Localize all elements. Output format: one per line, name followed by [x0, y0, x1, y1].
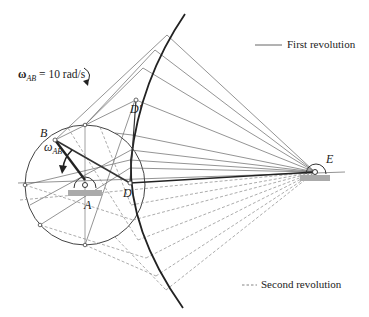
omega-value: = 10 rad/s [39, 68, 85, 80]
point-d-label: D [123, 186, 132, 201]
omega-subscript: AB [26, 74, 36, 83]
point-dprime-label: D′ [130, 102, 141, 117]
legend-first-revolution: First revolution [287, 38, 355, 50]
point-e-label: E [326, 152, 333, 167]
legend-second-revolution: Second revolution [261, 278, 341, 290]
point-a-label: A [84, 198, 91, 213]
omega-ab-arrowhead-icon [59, 165, 67, 174]
omega-ab-label: ωAB [44, 140, 62, 156]
omega-ab-subscript: AB [52, 147, 62, 156]
point-b-label: B [40, 126, 47, 141]
first-revolution-lines [25, 35, 315, 245]
coupler-curve [131, 14, 185, 308]
angular-velocity-label: ωAB = 10 rad/s [18, 68, 85, 83]
